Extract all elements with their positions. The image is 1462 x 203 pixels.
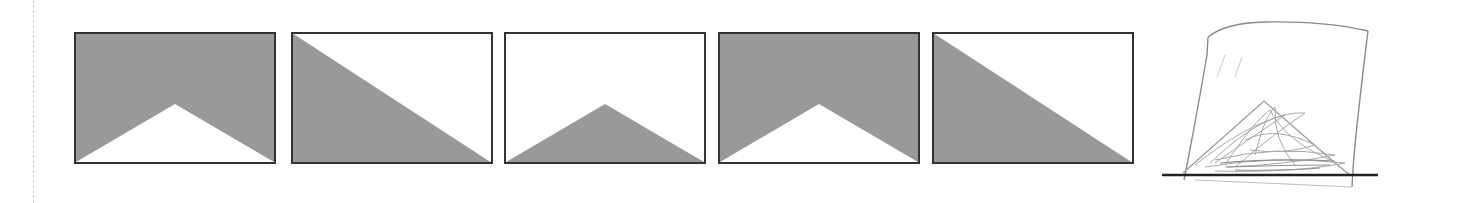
sketch-drawing <box>1155 15 1385 195</box>
panel-5 <box>932 32 1134 164</box>
panel-1-shape <box>74 32 276 164</box>
panel-1 <box>74 32 276 164</box>
hand-drawn-sketch <box>1155 15 1385 195</box>
panel-2-shape <box>291 32 493 164</box>
panel-3 <box>504 32 706 164</box>
panel-4 <box>718 32 920 164</box>
dashed-guide-line <box>33 0 34 203</box>
panel-5-shape <box>932 32 1134 164</box>
panel-3-shape <box>504 32 706 164</box>
panel-2 <box>291 32 493 164</box>
panel-4-shape <box>718 32 920 164</box>
